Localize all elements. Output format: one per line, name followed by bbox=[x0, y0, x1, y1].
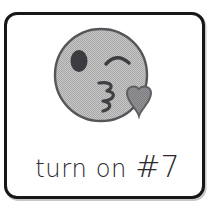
face-blowing-a-kiss-icon bbox=[49, 21, 161, 139]
caption-text: turn on #7 bbox=[35, 151, 179, 182]
emoji-illustration bbox=[7, 21, 202, 141]
caption-hash-number: #7 bbox=[135, 148, 179, 184]
emoji-left-eye bbox=[70, 50, 87, 72]
caption-row: turn on #7 bbox=[7, 141, 202, 191]
screenshot-root: turn on #7 bbox=[0, 0, 215, 208]
emoji-caption-card[interactable]: turn on #7 bbox=[4, 12, 205, 199]
caption-words: turn on bbox=[35, 154, 127, 183]
